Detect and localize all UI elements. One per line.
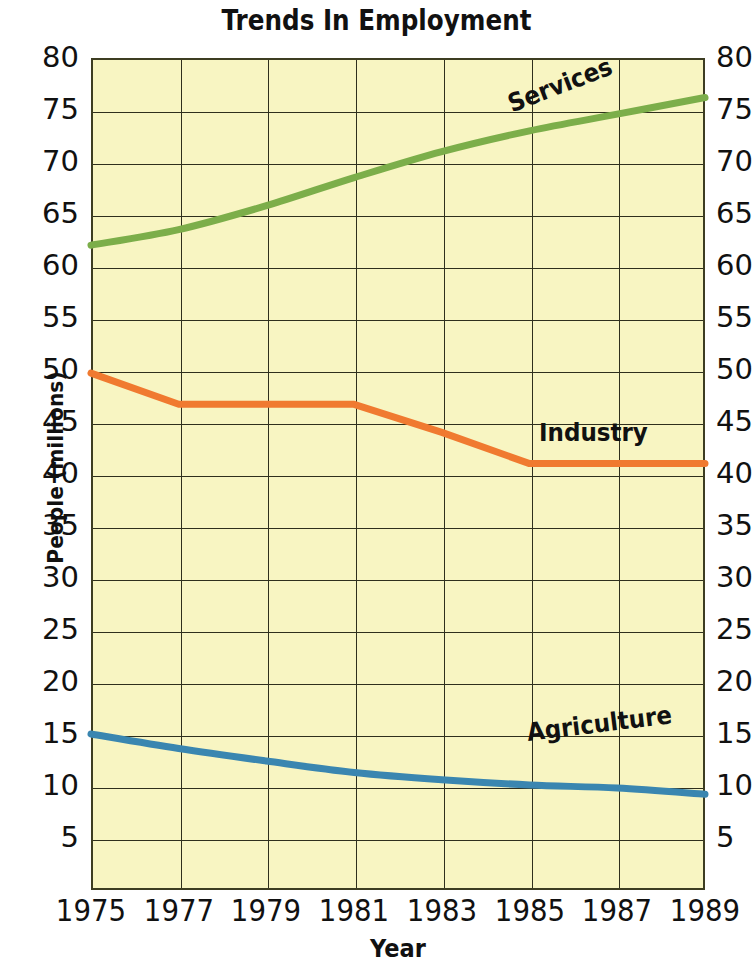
y-tick-label-right-15: 15 — [716, 719, 753, 748]
series-lines — [91, 58, 705, 890]
y-tick-label-right-55: 55 — [716, 303, 753, 332]
y-axis-title: People (millions) — [43, 330, 68, 606]
y-tick-label-right-35: 35 — [716, 511, 753, 540]
x-tick-label-1979: 1979 — [225, 896, 308, 926]
x-tick-label-1987: 1987 — [576, 896, 659, 926]
y-tick-label-right-65: 65 — [716, 199, 753, 228]
y-tick-label-right-5: 5 — [716, 823, 734, 852]
y-tick-label-left-5: 5 — [61, 823, 79, 852]
series-line-agriculture — [91, 734, 705, 794]
y-tick-label-right-50: 50 — [716, 355, 753, 384]
y-tick-label-left-10: 10 — [42, 771, 79, 800]
x-tick-label-1975: 1975 — [50, 896, 133, 926]
y-tick-label-left-80: 80 — [42, 43, 79, 72]
y-tick-label-left-15: 15 — [42, 719, 79, 748]
x-tick-label-1989: 1989 — [664, 896, 747, 926]
y-tick-label-left-75: 75 — [42, 95, 79, 124]
x-axis-title: Year — [122, 934, 675, 963]
y-tick-label-right-20: 20 — [716, 667, 753, 696]
series-label-industry: Industry — [539, 418, 648, 447]
x-tick-label-1981: 1981 — [313, 896, 396, 926]
y-tick-label-left-25: 25 — [42, 615, 79, 644]
y-tick-label-left-20: 20 — [42, 667, 79, 696]
y-tick-label-right-70: 70 — [716, 147, 753, 176]
y-tick-label-left-60: 60 — [42, 251, 79, 280]
y-tick-label-left-55: 55 — [42, 303, 79, 332]
y-tick-label-right-30: 30 — [716, 563, 753, 592]
chart-figure: Trends In Employment 5101520253035404550… — [0, 0, 753, 963]
y-tick-label-right-45: 45 — [716, 407, 753, 436]
x-tick-label-1977: 1977 — [137, 896, 220, 926]
y-tick-label-right-60: 60 — [716, 251, 753, 280]
y-tick-label-right-25: 25 — [716, 615, 753, 644]
x-tick-label-1983: 1983 — [400, 896, 483, 926]
y-tick-label-right-10: 10 — [716, 771, 753, 800]
y-tick-label-right-75: 75 — [716, 95, 753, 124]
y-tick-label-left-65: 65 — [42, 199, 79, 228]
y-tick-label-right-40: 40 — [716, 459, 753, 488]
x-tick-label-1985: 1985 — [488, 896, 571, 926]
y-tick-label-left-70: 70 — [42, 147, 79, 176]
y-tick-label-right-80: 80 — [716, 43, 753, 72]
chart-title: Trends In Employment — [45, 4, 708, 37]
series-line-services — [91, 98, 705, 246]
